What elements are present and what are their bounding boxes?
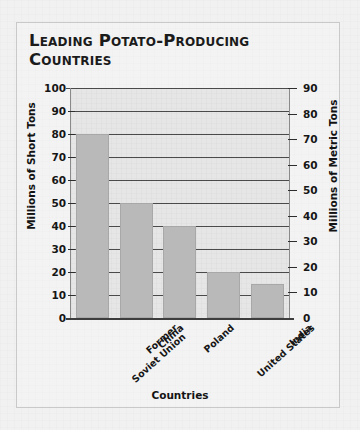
y-axis-right-tick-label: 20 — [303, 261, 329, 273]
bar-slot — [115, 88, 159, 318]
chart-page: Leading Potato-Producing Countries 01020… — [0, 0, 360, 430]
y-axis-left-tick-label: 20 — [40, 266, 66, 278]
axis-bottom-line — [66, 318, 294, 320]
y-axis-right-tick-mark — [288, 88, 297, 89]
bar — [207, 272, 240, 318]
y-axis-right-tick-mark — [288, 241, 297, 242]
y-axis-left-tick-label: 70 — [40, 151, 66, 163]
y-axis-left-tick-mark — [68, 249, 75, 250]
y-axis-right-tick-mark — [288, 114, 297, 115]
y-axis-left-tick-mark — [68, 203, 75, 204]
y-axis-right-tick-label: 30 — [303, 235, 329, 247]
y-axis-right-tick-mark — [288, 139, 297, 140]
bar — [76, 134, 109, 318]
y-axis-left-tick-mark — [68, 134, 75, 135]
y-axis-left-tick-label: 50 — [40, 197, 66, 209]
bar-series — [71, 88, 289, 318]
y-axis-right-tick-label: 70 — [303, 133, 329, 145]
y-axis-left-tick-mark — [68, 226, 75, 227]
y-axis-right-tick-mark — [288, 292, 297, 293]
y-axis-left-tick-label: 100 — [40, 82, 66, 94]
y-axis-left-title: Millions of Short Tons — [25, 96, 37, 236]
bar-slot — [202, 88, 246, 318]
y-axis-right-title: Millions of Metric Tons — [327, 91, 339, 241]
y-axis-left-tick-label: 80 — [40, 128, 66, 140]
y-axis-right-tick-label: 80 — [303, 108, 329, 120]
y-axis-right-tick-label: 60 — [303, 159, 329, 171]
y-axis-right-tick-label: 10 — [303, 286, 329, 298]
bar — [163, 226, 196, 318]
y-axis-left-tick-mark — [68, 295, 75, 296]
y-axis-right-tick-label: 90 — [303, 82, 329, 94]
chart-title: Leading Potato-Producing Countries — [29, 31, 309, 70]
plot-area — [70, 88, 290, 318]
bar-slot — [158, 88, 202, 318]
y-axis-left-tick-label: 10 — [40, 289, 66, 301]
y-axis-right-tick-mark — [288, 190, 297, 191]
y-axis-left-tick-mark — [68, 180, 75, 181]
y-axis-left-tick-mark — [68, 157, 75, 158]
y-axis-right-tick-label: 40 — [303, 210, 329, 222]
y-axis-left-tick-label: 0 — [40, 312, 66, 324]
y-axis-left-tick-label: 40 — [40, 220, 66, 232]
y-axis-left-tick-mark — [68, 111, 75, 112]
y-axis-right-tick-mark — [288, 216, 297, 217]
y-axis-left-tick-label: 30 — [40, 243, 66, 255]
bar — [120, 203, 153, 318]
y-axis-left-tick-label: 90 — [40, 105, 66, 117]
y-axis-right-tick-mark — [288, 267, 297, 268]
y-axis-right-tick-label: 50 — [303, 184, 329, 196]
y-axis-left-tick-label: 60 — [40, 174, 66, 186]
bar-slot — [71, 88, 115, 318]
bar — [251, 284, 284, 319]
y-axis-right-tick-mark — [288, 165, 297, 166]
x-axis-title: Countries — [0, 389, 360, 401]
bar-slot — [245, 88, 289, 318]
y-axis-left-tick-mark — [68, 272, 75, 273]
